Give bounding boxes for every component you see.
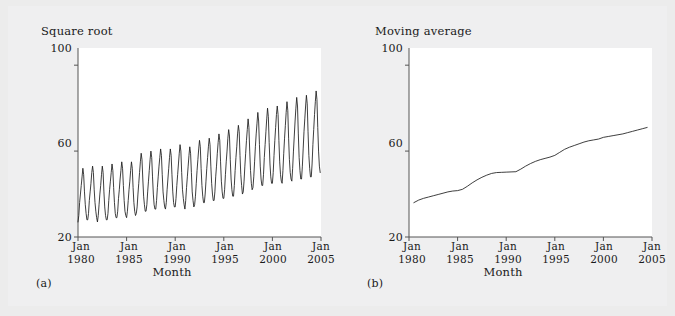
- panel-a-xtick-1: Jan 1985: [107, 240, 151, 265]
- panel-b-xtick-2: Jan 1990: [486, 240, 530, 265]
- panel-b-moving-average: Moving average 100 60 20 Jan 1980 Jan 19…: [337, 0, 675, 316]
- panel-a-ytick-100: 100: [38, 42, 72, 55]
- panel-b-x-axis-title: Month: [483, 265, 522, 279]
- panel-b-xtick-4-line1: Jan: [582, 240, 626, 253]
- panel-a-xtick-1-line1: Jan: [107, 240, 151, 253]
- panel-b-xtick-5-line1: Jan: [630, 240, 674, 253]
- panel-b-xtick-5: Jan 2005: [630, 240, 674, 265]
- panel-b-ytick-100: 100: [369, 42, 403, 55]
- panel-b-xtick-0-line2: 1980: [390, 253, 434, 266]
- panel-b-xtick-3-line2: 1995: [534, 253, 578, 266]
- panel-b-subfigure-label: (b): [367, 277, 383, 290]
- panel-a-xtick-4: Jan 2000: [251, 240, 295, 265]
- panel-b-xtick-1-line1: Jan: [438, 240, 482, 253]
- panel-a-xtick-0: Jan 1980: [59, 240, 103, 265]
- panel-a-y-axis-title: Square root: [41, 24, 113, 38]
- panel-b-xtick-3-line1: Jan: [534, 240, 578, 253]
- panel-b-xtick-0-line1: Jan: [390, 240, 434, 253]
- panel-a-xtick-2-line2: 1990: [155, 253, 199, 266]
- panel-a-ytick-60: 60: [38, 137, 72, 150]
- panel-b-xtick-0: Jan 1980: [390, 240, 434, 265]
- panel-b-xtick-5-line2: 2005: [630, 253, 674, 266]
- panel-b-xtick-2-line2: 1990: [486, 253, 530, 266]
- panel-a-xtick-4-line1: Jan: [251, 240, 295, 253]
- panel-a-square-root: Square root 100 60 20 Jan 1980 Jan 1985 …: [0, 0, 338, 316]
- panel-b-xtick-4: Jan 2000: [582, 240, 626, 265]
- panel-a-xtick-3-line1: Jan: [203, 240, 247, 253]
- panel-b-xtick-1: Jan 1985: [438, 240, 482, 265]
- panel-a-xtick-3: Jan 1995: [203, 240, 247, 265]
- figure-container: Square root 100 60 20 Jan 1980 Jan 1985 …: [0, 0, 675, 316]
- panel-b-xtick-1-line2: 1985: [438, 253, 482, 266]
- panel-b-ytick-60: 60: [369, 137, 403, 150]
- panel-a-xtick-0-line1: Jan: [59, 240, 103, 253]
- panel-a-xtick-0-line2: 1980: [59, 253, 103, 266]
- panel-a-xtick-3-line2: 1995: [203, 253, 247, 266]
- panel-a-xtick-2: Jan 1990: [155, 240, 199, 265]
- panel-b-xtick-3: Jan 1995: [534, 240, 578, 265]
- panel-a-xtick-2-line1: Jan: [155, 240, 199, 253]
- panel-a-subfigure-label: (a): [36, 277, 52, 290]
- panel-a-x-axis-title: Month: [152, 265, 191, 279]
- panel-b-y-axis-title: Moving average: [375, 24, 472, 38]
- panel-a-xtick-4-line2: 2000: [251, 253, 295, 266]
- panel-b-xtick-4-line2: 2000: [582, 253, 626, 266]
- panel-a-xtick-1-line2: 1985: [107, 253, 151, 266]
- panel-b-xtick-2-line1: Jan: [486, 240, 530, 253]
